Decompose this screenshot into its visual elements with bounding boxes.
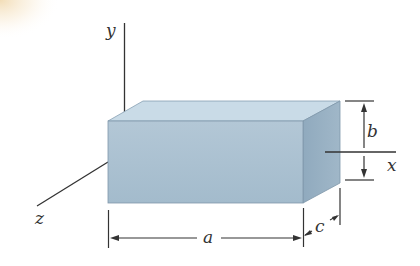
dimension-b-label: b xyxy=(367,121,378,141)
z-axis-label: z xyxy=(34,208,45,228)
corner-glow xyxy=(0,0,60,40)
top-face xyxy=(108,101,340,121)
dimension-c-label: c xyxy=(315,216,325,236)
x-axis-label: x xyxy=(387,155,397,175)
dimension-a-label: a xyxy=(203,227,213,247)
front-face xyxy=(108,121,303,203)
z-axis xyxy=(37,162,108,206)
rectangular-prism xyxy=(108,101,340,203)
y-axis-label: y xyxy=(105,20,116,40)
diagram-canvas: y z x b a c xyxy=(0,0,420,266)
